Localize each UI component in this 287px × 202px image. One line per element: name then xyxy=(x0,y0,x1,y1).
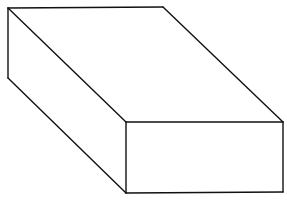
box-faces xyxy=(8,7,283,193)
box-drawing xyxy=(0,0,287,202)
top-back-edge xyxy=(8,7,163,8)
front-bottom-edge xyxy=(126,192,283,193)
front-face xyxy=(126,122,283,193)
box-diagram xyxy=(0,0,287,202)
